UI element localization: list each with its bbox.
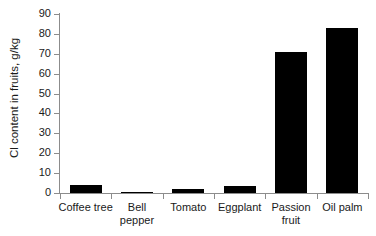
x-category-label: Oil palm: [311, 201, 374, 214]
bar: [172, 189, 204, 193]
y-tick-label: 70: [39, 47, 51, 59]
y-axis-title: Cl content in fruits, g/kg: [6, 0, 22, 196]
bar: [70, 185, 102, 193]
x-tick-mark: [317, 194, 318, 199]
plot-area: [60, 14, 368, 193]
x-category-label-line: Oil palm: [311, 201, 374, 214]
y-tick-label: 90: [39, 7, 51, 19]
x-tick-mark: [265, 194, 266, 199]
x-tick-mark: [111, 194, 112, 199]
y-tick-label: 10: [39, 166, 51, 178]
x-tick-mark: [368, 194, 369, 199]
x-tick-mark: [60, 194, 61, 199]
x-tick-mark: [214, 194, 215, 199]
y-tick-label: 20: [39, 146, 51, 158]
bar: [224, 186, 256, 193]
bar: [275, 52, 307, 193]
y-tick-label: 50: [39, 87, 51, 99]
bar: [326, 28, 358, 193]
y-tick-label: 0: [45, 186, 51, 198]
x-category-label-line: pepper: [105, 214, 168, 227]
y-tick-label: 40: [39, 106, 51, 118]
y-tick-label: 80: [39, 27, 51, 39]
bar: [121, 192, 153, 194]
y-tick-label: 30: [39, 126, 51, 138]
chart-figure: Cl content in fruits, g/kg 9080706050403…: [0, 0, 376, 236]
x-tick-mark: [163, 194, 164, 199]
y-tick-label: 60: [39, 67, 51, 79]
x-category-label-line: fruit: [259, 214, 322, 227]
